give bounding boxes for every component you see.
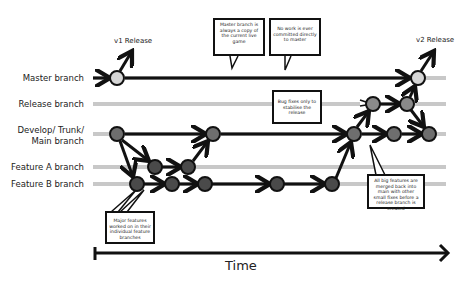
master-node [411, 71, 425, 85]
callout-bug-fixes: Bug fixes only to stabilise the release [272, 90, 322, 124]
develop-node [206, 127, 220, 141]
commit-nodes [110, 71, 436, 191]
label-feature-b-branch: Feature B branch [2, 179, 84, 189]
feature-b-node [198, 177, 212, 191]
feature-a-node [148, 160, 162, 174]
release-node [366, 97, 380, 111]
label-master-branch: Master branch [2, 73, 84, 83]
feature-b-node [165, 177, 179, 191]
label-develop-line1: Develop/ Trunk/ [2, 125, 84, 135]
label-develop-line2: Main branch [2, 136, 84, 146]
develop-node [347, 127, 361, 141]
feature-b-node [325, 177, 339, 191]
callout-master-copy: Master branch is always a copy of the cu… [213, 18, 265, 56]
callout-major-features: Major features worked on in their indivi… [105, 211, 155, 244]
label-release-branch: Release branch [2, 99, 84, 109]
develop-node [422, 127, 436, 141]
feature-b-node [130, 177, 144, 191]
callout-no-direct-commit: No work is ever committed directly to ma… [269, 18, 321, 56]
time-axis-label: Time [225, 258, 257, 273]
develop-node [110, 127, 124, 141]
v2-release-label: v2 Release [416, 36, 454, 44]
release-node [400, 97, 414, 111]
develop-node [387, 127, 401, 141]
v1-release-label: v1 Release [114, 37, 152, 45]
flow-lines [93, 51, 434, 184]
callout-merged-back: All big features are merged back into ma… [367, 174, 425, 209]
feature-b-node [270, 177, 284, 191]
label-feature-a-branch: Feature A branch [2, 162, 84, 172]
master-node [110, 71, 124, 85]
time-axis [95, 245, 448, 261]
feature-a-node [181, 160, 195, 174]
